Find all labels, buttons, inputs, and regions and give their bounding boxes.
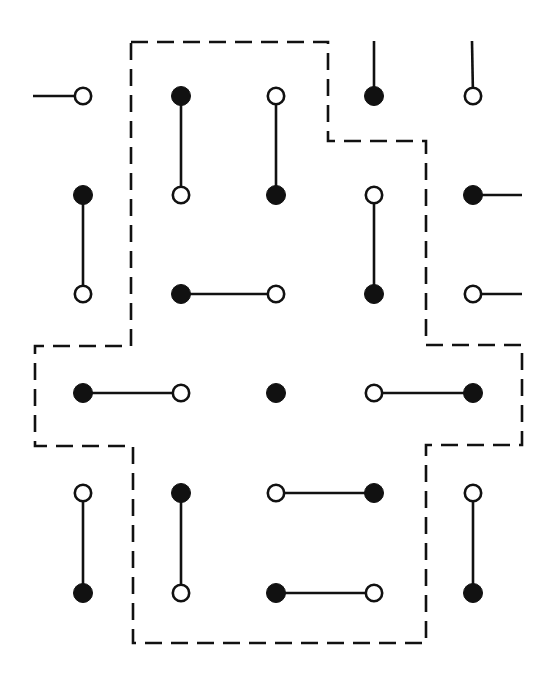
open-site xyxy=(366,385,382,401)
filled-site xyxy=(172,285,191,304)
filled-site xyxy=(267,186,286,205)
filled-site xyxy=(74,186,93,205)
boundary-outline xyxy=(35,42,522,643)
open-site xyxy=(75,485,91,501)
filled-site xyxy=(464,584,483,603)
filled-site xyxy=(365,285,384,304)
open-site xyxy=(465,485,481,501)
filled-site xyxy=(74,384,93,403)
unpaired-filled-site xyxy=(267,384,286,403)
open-site xyxy=(75,88,91,104)
open-site xyxy=(268,485,284,501)
open-site xyxy=(75,286,91,302)
dimer-lattice-diagram xyxy=(0,0,553,682)
open-site xyxy=(268,88,284,104)
filled-site xyxy=(267,584,286,603)
open-site xyxy=(465,286,481,302)
lattice-sites xyxy=(74,87,483,603)
dashed-boundary xyxy=(35,42,522,643)
open-site xyxy=(173,385,189,401)
boundary-stubs xyxy=(33,41,522,294)
open-site xyxy=(366,585,382,601)
filled-site xyxy=(464,384,483,403)
filled-site xyxy=(172,87,191,106)
filled-site xyxy=(172,484,191,503)
filled-site xyxy=(365,484,384,503)
open-site xyxy=(268,286,284,302)
open-site xyxy=(173,187,189,203)
open-site xyxy=(465,88,481,104)
filled-site xyxy=(74,584,93,603)
filled-site xyxy=(365,87,384,106)
open-site xyxy=(173,585,189,601)
filled-site xyxy=(464,186,483,205)
bonds xyxy=(83,96,473,593)
open-site xyxy=(366,187,382,203)
